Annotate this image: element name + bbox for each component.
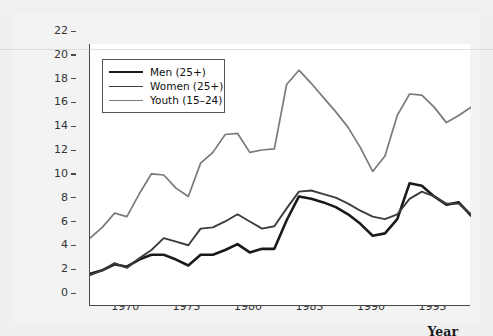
y-tick-label-20: 20 (42, 48, 68, 61)
y-tick-mark-16 (71, 102, 76, 103)
y-tick-mark-20 (71, 54, 76, 55)
y-axis-title: Unemployment rate (percent) (0, 0, 26, 29)
legend-item-men-25: Men (25+) (109, 65, 218, 79)
y-tick-mark-4 (71, 245, 76, 246)
y-tick-label-10: 10 (42, 167, 68, 180)
y-tick-mark-10 (71, 173, 76, 174)
scan-artifact-top (0, 0, 493, 13)
y-tick-mark-22 (71, 31, 76, 32)
legend-label: Women (25+) (150, 80, 223, 92)
y-axis-title-line2: (percent) (13, 0, 27, 29)
y-tick-label-12: 12 (42, 143, 68, 156)
y-tick-mark-14 (71, 126, 76, 127)
y-tick-label-8: 8 (42, 191, 68, 204)
y-tick-mark-18 (71, 78, 76, 79)
y-tick-mark-8 (71, 197, 76, 198)
y-tick-label-14: 14 (42, 119, 68, 132)
legend-label: Youth (15–24) (150, 94, 222, 106)
y-tick-label-4: 4 (42, 238, 68, 251)
legend-item-women-25: Women (25+) (109, 79, 218, 93)
x-axis-title: Year (428, 324, 458, 336)
y-tick-label-16: 16 (42, 95, 68, 108)
legend-swatch-icon (109, 71, 143, 73)
y-tick-label-2: 2 (42, 262, 68, 275)
y-tick-mark-6 (71, 221, 76, 222)
y-tick-mark-12 (71, 150, 76, 151)
figure-canvas: Unemployment rate (percent) 024681012141… (0, 0, 493, 336)
legend-swatch-icon (109, 100, 143, 101)
y-tick-label-22: 22 (42, 24, 68, 37)
y-tick-label-18: 18 (42, 72, 68, 85)
y-tick-label-0: 0 (42, 286, 68, 299)
legend-item-youth-15-24: Youth (15–24) (109, 93, 218, 107)
scanned-page: Unemployment rate (percent) 024681012141… (13, 13, 480, 323)
legend-label: Men (25+) (150, 66, 206, 78)
y-tick-mark-0 (71, 293, 76, 294)
legend-swatch-icon (109, 86, 143, 87)
y-tick-label-6: 6 (42, 215, 68, 228)
y-axis-title-line1: Unemployment rate (0, 0, 13, 29)
y-tick-mark-2 (71, 269, 76, 270)
legend: Men (25+)Women (25+)Youth (15–24) (102, 59, 225, 113)
